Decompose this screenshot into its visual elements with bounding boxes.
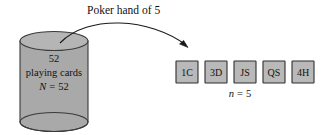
card-item: 1C [176,61,198,83]
sample-size-variable: n [229,88,234,99]
svg-text:N=52: N=52 [38,81,68,92]
figure-title: Poker hand of 5 [87,4,160,16]
population-size-value: 52 [58,81,69,92]
sample-cards: 1C 3D JS QS 4H [176,61,314,83]
card-item: JS [234,61,256,83]
card-label: QS [268,67,281,78]
sample-size-equals: = [237,88,243,99]
card-item: 3D [205,61,227,83]
population-size-equals: = [49,81,55,92]
card-label: JS [240,67,249,78]
population-count-label: 52 [49,53,60,64]
population-size-label: N=52 [38,81,68,92]
card-label: 1C [181,67,193,78]
card-label: 4H [297,67,309,78]
sample-size-label: n=5 [229,88,251,99]
cylinder-top-rim [20,32,88,51]
sample-size-value: 5 [246,88,251,99]
sampling-diagram: 52 playing cards N=52 Poker hand of 5 1C… [0,0,325,135]
population-name-label: playing cards [26,67,82,78]
population-size-variable: N [38,81,47,92]
svg-text:n=5: n=5 [229,88,251,99]
card-item: 4H [292,61,314,83]
card-item: QS [263,61,285,83]
card-label: 3D [210,67,222,78]
figure-canvas: 52 playing cards N=52 Poker hand of 5 1C… [0,0,325,135]
